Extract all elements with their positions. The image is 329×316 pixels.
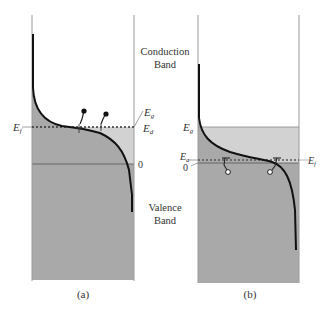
conduction-band-label-1: Conduction [141, 46, 191, 57]
caption-a: (a) [77, 288, 90, 301]
hole-circle [268, 170, 273, 175]
electron-dot [103, 111, 108, 116]
ef-label-a: Ef [12, 121, 23, 135]
valence-band-label-2: Band [154, 215, 177, 226]
eg-leader [134, 111, 143, 127]
eg-label-a: Eg [143, 106, 155, 120]
zero-leader-b [191, 163, 198, 166]
zero-label-a: 0 [138, 159, 143, 170]
hole-circle [226, 170, 231, 175]
valence-band-label-1: Valence [148, 202, 182, 213]
valence-fill [32, 164, 134, 280]
band-diagram: Ef Eg Ed 0 (a) Conduction Band Valence B… [0, 0, 329, 316]
valence-fill-b [198, 163, 299, 283]
conduction-band-label-2: Band [154, 59, 177, 70]
ed-label-a: Ed [142, 122, 154, 136]
electron-dot [81, 108, 86, 113]
eg-label-b: Eg [182, 121, 194, 135]
panel-b: Eg Ea 0 Ef (b) [179, 15, 317, 301]
ef-label-b: Ef [307, 155, 317, 167]
zero-label-b: 0 [183, 162, 188, 173]
panel-a: Ef Eg Ed 0 (a) [12, 15, 155, 301]
caption-b: (b) [244, 288, 257, 301]
